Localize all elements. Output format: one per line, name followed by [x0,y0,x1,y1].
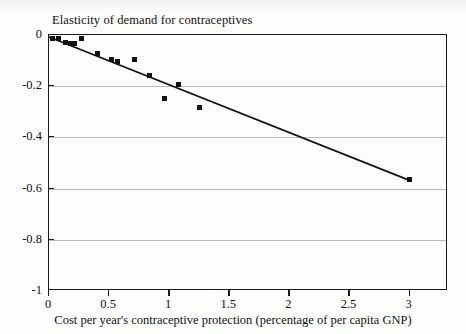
data-point [95,51,100,56]
x-tick-label-2: 2 [268,297,308,311]
page-title: Elasticity of demand for contraceptives [52,13,252,28]
trend-line [49,35,448,291]
x-tick-label-3: 3 [389,297,429,311]
data-point [162,96,167,101]
y-tick-label--0.2: -0.2 [0,79,42,91]
data-point [56,36,61,41]
x-axis-title: Cost per year's contraceptive protection… [0,313,466,328]
data-point [79,36,84,41]
y-tick-label--1: -1 [0,284,42,296]
x-tick-label-0.5: 0.5 [88,297,128,311]
x-tick-label-0: 0 [28,297,68,311]
data-point [176,82,181,87]
data-point [115,59,120,64]
data-point [407,177,412,182]
data-point [109,57,114,62]
x-tick-label-2.5: 2.5 [328,297,368,311]
plot-area [48,34,447,290]
y-tick-label-0: 0 [0,28,42,40]
x-tick-label-1: 1 [148,297,188,311]
x-tick-label-1.5: 1.5 [208,297,248,311]
data-point [147,73,152,78]
data-point [72,41,77,46]
data-point [50,36,55,41]
y-tick-label--0.8: -0.8 [0,233,42,245]
elasticity-scatter-figure: Elasticity of demand for contraceptives … [0,0,466,334]
y-tick-label--0.6: -0.6 [0,182,42,194]
y-tick-label--0.4: -0.4 [0,130,42,142]
data-point [132,57,137,62]
data-point [197,105,202,110]
